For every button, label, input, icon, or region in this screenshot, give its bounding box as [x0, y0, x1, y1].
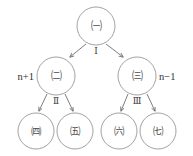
node-leaf-3: ㈥ [101, 113, 137, 149]
edge-right-to-leaf-3 [121, 94, 128, 111]
node-leaf-1: ㈣ [18, 113, 54, 149]
annotation-n-plus-1: n+1 [18, 71, 34, 82]
edge-left-to-leaf-1 [39, 94, 47, 111]
node-leaf-2: ㈤ [57, 113, 93, 149]
annotation-n-minus-1: n−1 [159, 71, 175, 82]
node-leaf-1-label: ㈣ [31, 125, 42, 137]
node-right-label: ㈢ [132, 70, 143, 83]
node-leaf-4-label: ㈦ [153, 125, 164, 137]
node-top: ㈠ [77, 7, 115, 45]
edge-label-two: Ⅱ [53, 96, 59, 106]
node-leaf-2-label: ㈤ [70, 125, 81, 137]
edge-label-one: Ⅰ [94, 46, 98, 56]
edge-left-to-leaf-2 [65, 94, 73, 111]
node-leaf-4: ㈦ [140, 113, 176, 149]
node-top-label: ㈠ [91, 20, 102, 33]
tree-diagram-container: ㈠ ㈡ ㈢ ㈣ ㈤ ㈥ ㈦ Ⅰ Ⅱ [0, 0, 193, 156]
edge-top-to-right [106, 44, 123, 57]
node-leaf-3-label: ㈥ [114, 125, 125, 137]
node-left: ㈡ [37, 57, 75, 95]
edge-top-to-left [70, 44, 86, 57]
tree-diagram-canvas: ㈠ ㈡ ㈢ ㈣ ㈤ ㈥ ㈦ Ⅰ Ⅱ [0, 0, 193, 156]
edge-label-three: Ⅲ [133, 96, 142, 106]
node-left-label: ㈡ [51, 70, 62, 83]
edge-right-to-leaf-4 [147, 94, 155, 111]
node-right: ㈢ [118, 57, 156, 95]
